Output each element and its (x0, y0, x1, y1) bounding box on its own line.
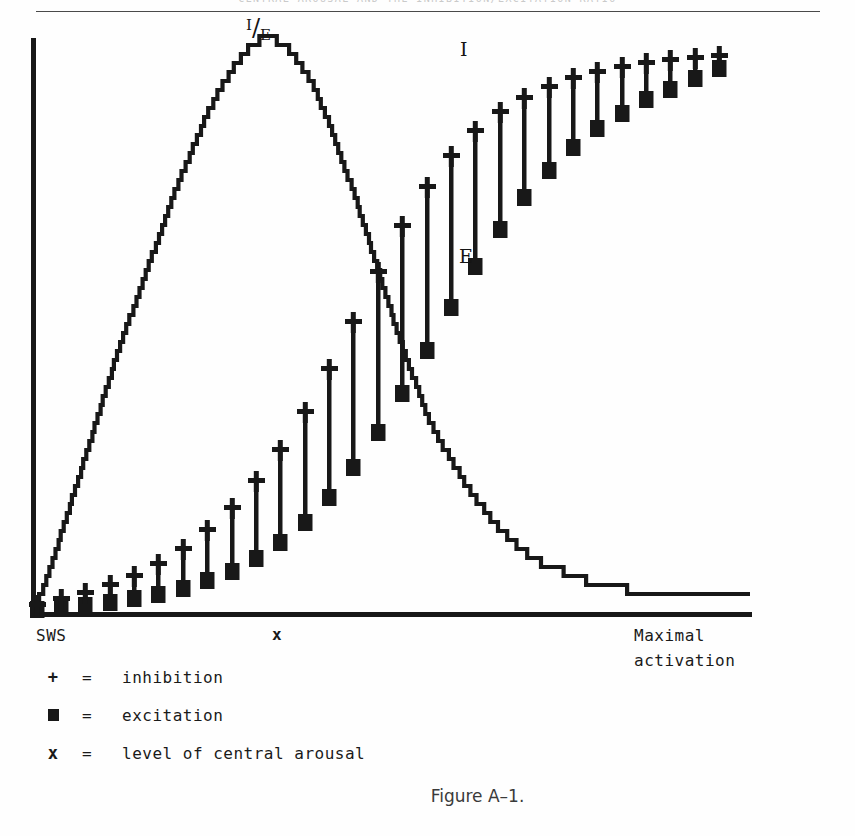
legend-label: level of central arousal (104, 744, 365, 763)
legend-label: inhibition (104, 668, 223, 687)
figure-legend: +=inhibition=excitationx=level of centra… (36, 658, 365, 772)
plot-axes (31, 38, 752, 617)
axis-caption-right-line1: Maximal (634, 626, 705, 645)
plot-svg (0, 0, 855, 640)
axis-caption-right: Maximalactivation (634, 623, 735, 673)
scanned-page: CENTRAL AROUSAL AND THE INHIBITION/EXCIT… (0, 0, 855, 836)
connector-stems (35, 56, 722, 609)
legend-square-icon (36, 709, 70, 721)
legend-equals-sign: = (70, 668, 104, 687)
ratio-denominator: E (260, 26, 271, 44)
filled-square-icon (48, 709, 59, 721)
ratio-curve (33, 36, 750, 612)
axis-caption-mid: x (272, 625, 282, 644)
legend-label: excitation (104, 706, 223, 725)
figure-plot-area (0, 0, 855, 640)
legend-letter-key: x (36, 743, 70, 763)
axis-caption-left: SWS (36, 626, 66, 645)
axis-caption-right-line2: activation (634, 651, 735, 670)
ratio-slash: / (252, 14, 260, 42)
figure-caption: Figure A–1. (0, 786, 855, 806)
legend-row: +=inhibition (36, 658, 365, 696)
legend-equals-sign: = (70, 706, 104, 725)
legend-row: =excitation (36, 696, 365, 734)
legend-row: x=level of central arousal (36, 734, 365, 772)
inhibition-curve-label: I (460, 38, 468, 60)
excitation-curve-label: E (459, 245, 473, 267)
legend-plus-icon: + (36, 667, 70, 687)
ratio-curve-label: I/E (246, 14, 271, 44)
legend-equals-sign: = (70, 744, 104, 763)
